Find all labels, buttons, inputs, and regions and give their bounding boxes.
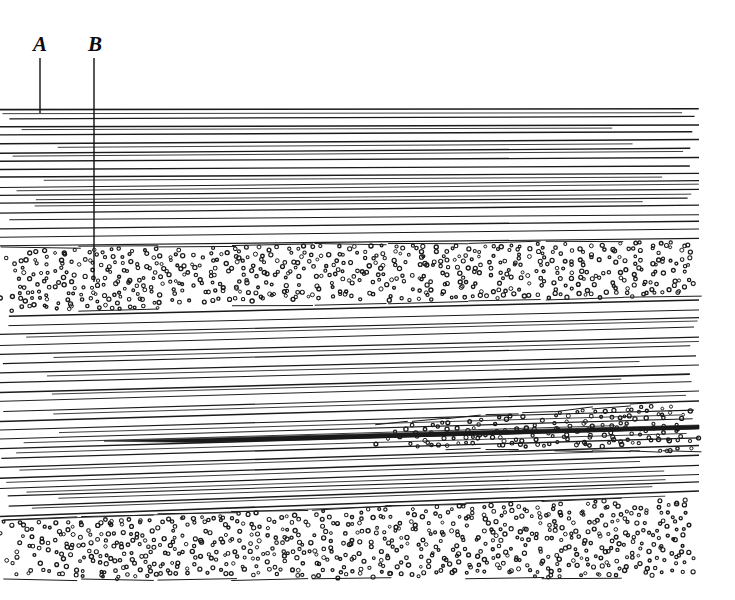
cross-section-diagram: A B xyxy=(0,0,735,600)
figure-root: A B xyxy=(0,0,735,600)
label-a-text: A xyxy=(31,32,47,56)
bedding-line xyxy=(0,109,699,110)
label-b-text: B xyxy=(87,32,102,56)
bedding-line xyxy=(554,451,592,452)
